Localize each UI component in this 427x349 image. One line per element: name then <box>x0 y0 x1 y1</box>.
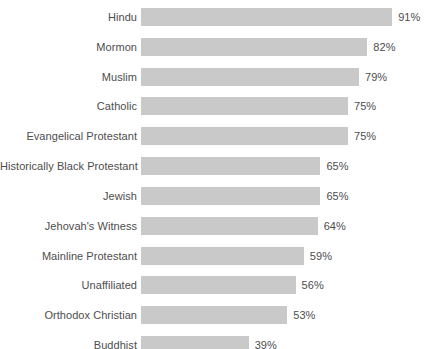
value-label: 75% <box>354 127 376 145</box>
bar-fill <box>141 38 367 56</box>
bar-fill <box>141 127 348 145</box>
value-label: 64% <box>324 217 346 235</box>
bar-track <box>141 97 348 115</box>
bar-fill <box>141 68 359 86</box>
bar-track <box>141 127 348 145</box>
bar-fill <box>141 8 392 26</box>
value-label: 56% <box>302 276 324 294</box>
bar-track <box>141 247 304 265</box>
category-label: Hindu <box>0 8 137 26</box>
bar-fill <box>141 157 320 175</box>
category-label: Mainline Protestant <box>0 247 137 265</box>
bar-row: Historically Black Protestant65% <box>0 157 427 175</box>
value-label: 91% <box>398 8 420 26</box>
bar-fill <box>141 336 249 349</box>
value-label: 82% <box>373 38 395 56</box>
value-label: 65% <box>326 157 348 175</box>
value-label: 75% <box>354 97 376 115</box>
bar-fill <box>141 97 348 115</box>
bar-row: Jehovah's Witness64% <box>0 217 427 235</box>
bar-chart: Hindu91%Mormon82%Muslim79%Catholic75%Eva… <box>0 0 427 349</box>
bar-row: Mainline Protestant59% <box>0 247 427 265</box>
bar-track <box>141 8 392 26</box>
category-label: Jewish <box>0 187 137 205</box>
bar-row: Hindu91% <box>0 8 427 26</box>
category-label: Jehovah's Witness <box>0 217 137 235</box>
bar-fill <box>141 247 304 265</box>
bar-track <box>141 157 320 175</box>
bar-row: Buddhist39% <box>0 336 427 349</box>
category-label: Mormon <box>0 38 137 56</box>
bar-fill <box>141 306 287 324</box>
category-label: Unaffiliated <box>0 276 137 294</box>
value-label: 59% <box>310 247 332 265</box>
value-label: 39% <box>255 336 277 349</box>
bar-fill <box>141 187 320 205</box>
bar-row: Orthodox Christian53% <box>0 306 427 324</box>
category-label: Orthodox Christian <box>0 306 137 324</box>
bar-track <box>141 276 296 294</box>
bar-track <box>141 336 249 349</box>
bar-row: Mormon82% <box>0 38 427 56</box>
bar-track <box>141 217 318 235</box>
bar-row: Unaffiliated56% <box>0 276 427 294</box>
category-label: Evangelical Protestant <box>0 127 137 145</box>
bar-row: Evangelical Protestant75% <box>0 127 427 145</box>
bar-track <box>141 306 287 324</box>
category-label: Catholic <box>0 97 137 115</box>
bar-fill <box>141 217 318 235</box>
bar-fill <box>141 276 296 294</box>
bar-track <box>141 68 359 86</box>
bar-row: Muslim79% <box>0 68 427 86</box>
category-label: Muslim <box>0 68 137 86</box>
category-label: Historically Black Protestant <box>0 157 137 175</box>
value-label: 79% <box>365 68 387 86</box>
bar-track <box>141 38 367 56</box>
bar-row: Jewish65% <box>0 187 427 205</box>
category-label: Buddhist <box>0 336 137 349</box>
bar-track <box>141 187 320 205</box>
value-label: 65% <box>326 187 348 205</box>
bar-row: Catholic75% <box>0 97 427 115</box>
value-label: 53% <box>293 306 315 324</box>
